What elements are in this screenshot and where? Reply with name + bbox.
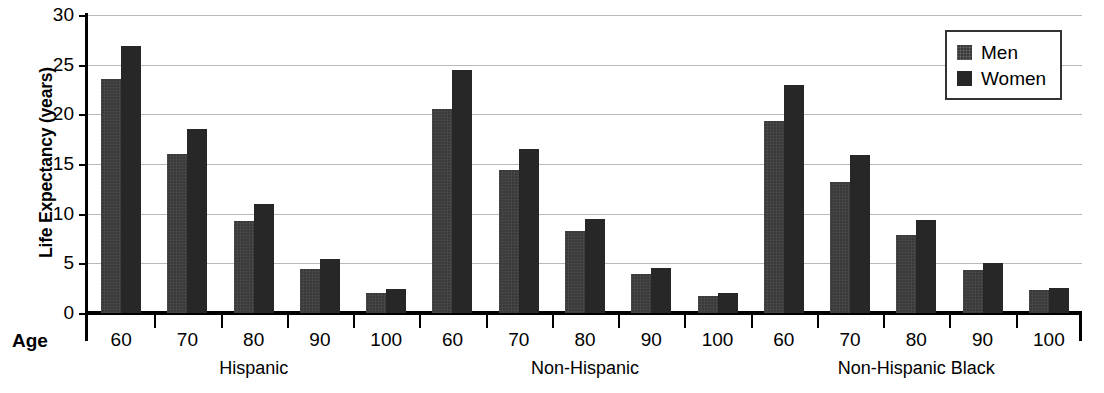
x-tick-label-age-90: 90 bbox=[618, 330, 684, 349]
gridline bbox=[88, 164, 1082, 165]
x-tick-mark bbox=[486, 315, 488, 328]
y-tick-mark bbox=[79, 114, 88, 116]
x-tick-mark bbox=[883, 315, 885, 328]
x-tick-label-age-90: 90 bbox=[287, 330, 353, 349]
x-tick-mark bbox=[552, 315, 554, 328]
y-tick-label: 0 bbox=[28, 303, 74, 322]
bar-non-hispanic-black-age60-women bbox=[784, 85, 804, 313]
group-label-hispanic: Hispanic bbox=[88, 359, 419, 377]
legend-swatch-women-icon bbox=[957, 71, 972, 86]
legend-item-men: Men bbox=[957, 39, 1046, 65]
bar-hispanic-age60-women bbox=[121, 46, 141, 313]
legend-label-men: Men bbox=[981, 43, 1018, 62]
x-tick-mark bbox=[684, 315, 686, 328]
bar-non-hispanic-black-age100-men bbox=[1029, 290, 1049, 313]
bar-non-hispanic-age80-men bbox=[565, 231, 585, 313]
bar-hispanic-age90-women bbox=[320, 259, 340, 313]
x-tick-mark bbox=[287, 315, 289, 328]
y-tick-mark bbox=[79, 313, 88, 315]
group-label-non-hispanic-black: Non-Hispanic Black bbox=[751, 359, 1082, 377]
x-tick-label-age-70: 70 bbox=[154, 330, 220, 349]
x-tick-label-age-100: 100 bbox=[1016, 330, 1082, 349]
x-tick-label-age-70: 70 bbox=[817, 330, 883, 349]
y-tick-mark bbox=[79, 214, 88, 216]
legend-label-women: Women bbox=[981, 69, 1046, 88]
bar-non-hispanic-black-age100-women bbox=[1049, 288, 1069, 313]
x-tick-label-age-80: 80 bbox=[221, 330, 287, 349]
bar-non-hispanic-black-age90-men bbox=[963, 270, 983, 313]
y-tick-label: 30 bbox=[28, 5, 74, 24]
group-label-non-hispanic: Non-Hispanic bbox=[419, 359, 750, 377]
bar-non-hispanic-age80-women bbox=[585, 219, 605, 313]
bar-hispanic-age60-men bbox=[101, 79, 121, 313]
bar-hispanic-age90-men bbox=[300, 269, 320, 313]
bar-non-hispanic-black-age70-men bbox=[830, 182, 850, 313]
bar-chart: Life Expectancy (years) 051015202530 Age… bbox=[0, 0, 1104, 393]
bar-non-hispanic-age100-men bbox=[698, 296, 718, 313]
x-tick-label-age-80: 80 bbox=[883, 330, 949, 349]
x-tick-mark bbox=[221, 315, 223, 328]
x-tick-label-age-60: 60 bbox=[88, 330, 154, 349]
x-tick-label-age-60: 60 bbox=[419, 330, 485, 349]
x-axis-title: Age bbox=[12, 330, 48, 352]
bar-hispanic-age70-women bbox=[187, 129, 207, 313]
bar-hispanic-age100-women bbox=[386, 289, 406, 313]
bar-non-hispanic-age70-men bbox=[499, 170, 519, 313]
x-tick-label-age-60: 60 bbox=[751, 330, 817, 349]
x-tick-label-age-90: 90 bbox=[949, 330, 1015, 349]
x-tick-mark bbox=[154, 315, 156, 328]
legend-swatch-men-icon bbox=[957, 45, 972, 60]
bar-non-hispanic-age60-women bbox=[452, 70, 472, 313]
gridline bbox=[88, 214, 1082, 215]
bar-non-hispanic-age100-women bbox=[718, 293, 738, 313]
x-tick-mark bbox=[949, 315, 951, 328]
gridline bbox=[88, 15, 1082, 16]
x-tick-mark bbox=[419, 315, 421, 328]
plot-area bbox=[88, 15, 1082, 313]
y-tick-mark bbox=[79, 263, 88, 265]
gridline bbox=[88, 65, 1082, 66]
legend-item-women: Women bbox=[957, 65, 1046, 91]
x-tick-label-age-100: 100 bbox=[684, 330, 750, 349]
y-tick-mark bbox=[79, 15, 88, 17]
y-tick-label: 5 bbox=[28, 253, 74, 272]
bar-non-hispanic-black-age80-women bbox=[916, 220, 936, 313]
bar-hispanic-age100-men bbox=[366, 293, 386, 313]
bar-non-hispanic-age60-men bbox=[432, 109, 452, 313]
y-tick-mark bbox=[79, 164, 88, 166]
gridline bbox=[88, 114, 1082, 115]
x-tick-mark bbox=[1016, 315, 1018, 328]
y-tick-label: 10 bbox=[28, 204, 74, 223]
bar-hispanic-age80-women bbox=[254, 204, 274, 313]
bar-non-hispanic-age90-women bbox=[651, 268, 671, 313]
x-tick-mark bbox=[817, 315, 819, 328]
y-tick-mark bbox=[79, 65, 88, 67]
y-tick-label: 15 bbox=[28, 154, 74, 173]
y-tick-label: 20 bbox=[28, 104, 74, 123]
legend: Men Women bbox=[945, 30, 1062, 100]
y-tick-label: 25 bbox=[28, 55, 74, 74]
bar-non-hispanic-age90-men bbox=[631, 274, 651, 313]
bar-non-hispanic-black-age60-men bbox=[764, 121, 784, 313]
bar-non-hispanic-black-age90-women bbox=[983, 263, 1003, 313]
bar-non-hispanic-black-age80-men bbox=[896, 235, 916, 313]
x-tick-label-age-80: 80 bbox=[552, 330, 618, 349]
x-tick-label-age-100: 100 bbox=[353, 330, 419, 349]
bar-hispanic-age70-men bbox=[167, 154, 187, 313]
x-tick-mark bbox=[353, 315, 355, 328]
x-tick-label-age-70: 70 bbox=[486, 330, 552, 349]
bar-hispanic-age80-men bbox=[234, 221, 254, 313]
x-tick-mark bbox=[751, 315, 753, 328]
bar-non-hispanic-black-age70-women bbox=[850, 155, 870, 313]
x-tick-mark bbox=[618, 315, 620, 328]
bar-non-hispanic-age70-women bbox=[519, 149, 539, 313]
